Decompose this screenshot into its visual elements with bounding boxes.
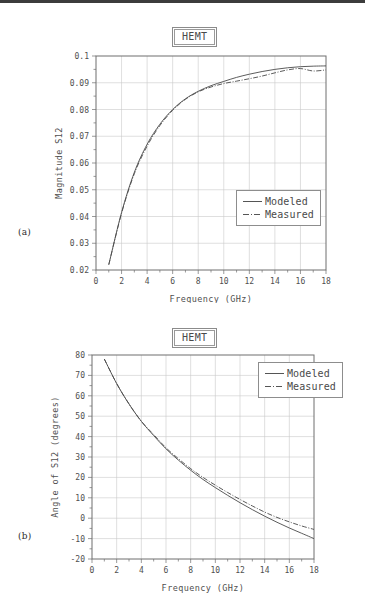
svg-text:4: 4 bbox=[139, 566, 144, 575]
svg-text:-20: -20 bbox=[71, 555, 86, 564]
legend-entry-modeled-a: Modeled bbox=[242, 195, 314, 208]
svg-text:50: 50 bbox=[75, 412, 85, 421]
data-series bbox=[109, 66, 326, 265]
plot-area-angle-s12: -20-1001020304050607080024681012141618Fr… bbox=[0, 312, 365, 602]
svg-text:-10: -10 bbox=[71, 535, 86, 544]
tick-labels: 0.020.030.040.050.060.070.080.090.102468… bbox=[70, 52, 331, 286]
svg-text:0.08: 0.08 bbox=[70, 106, 89, 115]
svg-text:8: 8 bbox=[196, 277, 201, 286]
svg-text:10: 10 bbox=[75, 494, 85, 503]
svg-text:0.1: 0.1 bbox=[75, 52, 90, 61]
chart-title-b: HEMT bbox=[174, 330, 215, 346]
chart-svg-magnitude-s12: 0.020.030.040.050.060.070.080.090.102468… bbox=[0, 8, 365, 303]
chart-svg-angle-s12: -20-1001020304050607080024681012141618Fr… bbox=[0, 312, 365, 602]
legend-label-modeled-b: Modeled bbox=[287, 368, 330, 379]
svg-text:18: 18 bbox=[309, 566, 319, 575]
svg-text:0.02: 0.02 bbox=[70, 266, 89, 275]
svg-text:Frequency (GHz): Frequency (GHz) bbox=[162, 583, 245, 593]
svg-text:12: 12 bbox=[235, 566, 245, 575]
svg-text:0: 0 bbox=[94, 277, 99, 286]
chart-title-a: HEMT bbox=[174, 29, 215, 45]
svg-text:0: 0 bbox=[80, 514, 85, 523]
legend-label-measured-b: Measured bbox=[287, 381, 336, 392]
svg-text:16: 16 bbox=[285, 566, 295, 575]
svg-text:14: 14 bbox=[260, 566, 270, 575]
dashdot-line-icon bbox=[264, 382, 285, 391]
svg-text:0.05: 0.05 bbox=[70, 186, 89, 195]
axis-ticks bbox=[92, 56, 326, 274]
svg-text:30: 30 bbox=[75, 453, 85, 462]
svg-text:0.03: 0.03 bbox=[70, 239, 89, 248]
dashdot-line-icon bbox=[242, 210, 263, 219]
svg-text:6: 6 bbox=[170, 277, 175, 286]
svg-text:Magnitude S12: Magnitude S12 bbox=[54, 127, 64, 199]
page-top-rule bbox=[0, 0, 365, 3]
legend-a: Modeled Measured bbox=[236, 190, 321, 226]
solid-line-icon bbox=[242, 197, 263, 206]
figure-panel-b: (b) -20-10010203040506070800246810121416… bbox=[0, 312, 365, 602]
svg-text:0.06: 0.06 bbox=[70, 159, 89, 168]
svg-text:0: 0 bbox=[90, 566, 95, 575]
svg-text:2: 2 bbox=[119, 277, 124, 286]
chart-title-box-b: HEMT bbox=[172, 328, 217, 348]
legend-entry-modeled-b: Modeled bbox=[264, 367, 336, 380]
svg-text:40: 40 bbox=[75, 433, 85, 442]
svg-text:20: 20 bbox=[75, 473, 85, 482]
svg-text:0.07: 0.07 bbox=[70, 132, 89, 141]
svg-text:6: 6 bbox=[164, 566, 169, 575]
legend-label-modeled-a: Modeled bbox=[265, 196, 308, 207]
series-measured bbox=[109, 69, 326, 265]
svg-text:2: 2 bbox=[114, 566, 119, 575]
svg-text:14: 14 bbox=[270, 277, 280, 286]
svg-text:0.04: 0.04 bbox=[70, 213, 89, 222]
chart-title-box-a: HEMT bbox=[172, 27, 217, 47]
svg-text:80: 80 bbox=[75, 351, 85, 360]
legend-entry-measured-a: Measured bbox=[242, 208, 314, 221]
svg-text:8: 8 bbox=[188, 566, 193, 575]
svg-text:16: 16 bbox=[296, 277, 306, 286]
solid-line-icon bbox=[264, 369, 285, 378]
svg-text:10: 10 bbox=[219, 277, 229, 286]
legend-b: Modeled Measured bbox=[258, 362, 343, 398]
svg-text:10: 10 bbox=[211, 566, 221, 575]
grid-lines bbox=[96, 56, 326, 270]
svg-text:18: 18 bbox=[321, 277, 331, 286]
svg-text:Frequency (GHz): Frequency (GHz) bbox=[170, 294, 253, 303]
plot-area-magnitude-s12: 0.020.030.040.050.060.070.080.090.102468… bbox=[0, 8, 365, 303]
svg-text:0.09: 0.09 bbox=[70, 79, 89, 88]
svg-text:12: 12 bbox=[245, 277, 255, 286]
svg-text:Angle of S12 (degrees): Angle of S12 (degrees) bbox=[50, 396, 60, 517]
figure-panel-a: (a) 0.020.030.040.050.060.070.080.090.10… bbox=[0, 8, 365, 303]
svg-text:60: 60 bbox=[75, 392, 85, 401]
svg-text:70: 70 bbox=[75, 371, 85, 380]
svg-text:4: 4 bbox=[145, 277, 150, 286]
legend-label-measured-a: Measured bbox=[265, 209, 314, 220]
legend-entry-measured-b: Measured bbox=[264, 380, 336, 393]
series-modeled bbox=[109, 66, 326, 265]
